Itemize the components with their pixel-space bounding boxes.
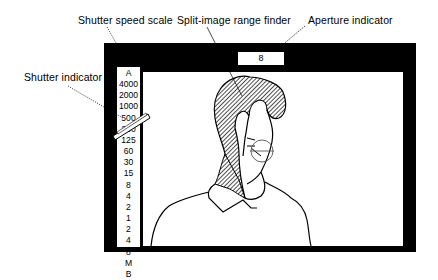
aperture-indicator: 8 <box>238 52 284 65</box>
shutter-scale-item: 1000 <box>119 101 138 112</box>
shutter-speed-scale-label: Shutter speed scale <box>78 14 173 26</box>
left-shoulder-outline <box>151 192 209 246</box>
shutter-scale-item: 60 <box>124 146 134 157</box>
shutter-scale-item: 4 <box>126 235 131 246</box>
shutter-scale-item: 8 <box>126 180 131 191</box>
shutter-indicator-label: Shutter indicator <box>24 71 102 83</box>
shutter-scale-item: 30 <box>124 157 134 168</box>
face-outline <box>243 110 273 184</box>
shutter-scale-item: 1 <box>126 213 131 224</box>
shutter-scale-item: B <box>126 269 132 280</box>
aperture-indicator-label: Aperture indicator <box>308 14 393 26</box>
split-image-range-finder-label: Split-image range finder <box>177 14 291 26</box>
shutter-speed-scale: A 4000 2000 1000 500 250 125 60 30 15 8 … <box>117 67 140 247</box>
shutter-scale-item: 2 <box>126 224 131 235</box>
shutter-scale-item: M <box>125 258 132 269</box>
right-collar-outline <box>245 172 265 199</box>
shutter-scale-item: 8 <box>126 247 131 258</box>
shutter-scale-item: 2000 <box>119 90 138 101</box>
shutter-scale-item: 4 <box>126 191 131 202</box>
shutter-scale-item: 15 <box>124 168 134 179</box>
right-shoulder-outline <box>265 182 311 246</box>
shutter-scale-item: A <box>126 68 132 79</box>
shutter-scale-item: 250 <box>121 124 135 135</box>
shutter-scale-item: 2 <box>126 202 131 213</box>
viewfinder-image-area <box>143 72 403 246</box>
portrait-illustration <box>143 72 403 246</box>
shutter-scale-item: 125 <box>121 135 135 146</box>
shutter-scale-item: 4000 <box>119 79 138 90</box>
shutter-scale-item: 500 <box>121 113 135 124</box>
